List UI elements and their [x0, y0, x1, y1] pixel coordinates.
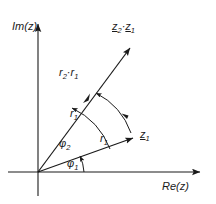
product-magnitude-label: r2·r1: [59, 66, 78, 81]
angle-phi1-label: φ1: [67, 157, 78, 172]
z1-label-sub: 1: [146, 134, 150, 143]
product-vector: [38, 48, 130, 172]
angle-phi1-arc: [80, 156, 84, 172]
product-label-sub-2: 1: [131, 26, 135, 35]
upper-magnitude-label: r1: [70, 107, 78, 122]
imaginary-axis-label: Im(z): [12, 20, 37, 32]
complex-plane-vector-diagram: Im(z) Re(z) z2·z1 r2·r1 r1 r1 z1 φ2 φ1: [0, 0, 216, 204]
lower-magnitude-label: r1: [100, 132, 108, 147]
z1-vector-label: z1: [140, 128, 150, 143]
rotation-arc: [96, 93, 131, 133]
angle-phi2-sub: 2: [66, 143, 70, 152]
angle-phi2-label: φ2: [59, 137, 70, 152]
z1-vector: [38, 138, 133, 172]
lower-magnitude-sub: 1: [104, 138, 108, 147]
upper-magnitude-sub: 1: [74, 113, 78, 122]
angle-phi1-sub: 1: [74, 163, 78, 172]
product-magnitude-sub-2: 1: [74, 72, 78, 81]
real-axis-label: Re(z): [162, 180, 189, 192]
product-vector-mid-arrow: [83, 94, 90, 103]
product-vector-label: z2·z1: [112, 20, 135, 35]
